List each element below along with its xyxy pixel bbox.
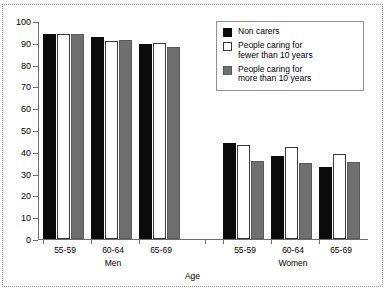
bar bbox=[91, 37, 104, 239]
x-tick bbox=[223, 240, 224, 244]
bar bbox=[167, 47, 180, 239]
y-tick-label: 60 bbox=[21, 105, 31, 114]
bar-group bbox=[139, 22, 187, 239]
panel-separator bbox=[191, 22, 219, 239]
legend-swatch-more-than-10-years bbox=[223, 66, 232, 75]
y-tick-label: 0 bbox=[26, 236, 31, 245]
panel-label: Women bbox=[278, 259, 307, 268]
legend-label: Non carers bbox=[238, 27, 280, 37]
legend: Non carers People caring for fewer than … bbox=[216, 21, 364, 91]
y-tick bbox=[33, 109, 38, 110]
x-tick bbox=[43, 240, 44, 244]
bar bbox=[119, 40, 132, 239]
x-tick bbox=[205, 240, 206, 244]
y-tick bbox=[33, 66, 38, 67]
y-tick bbox=[33, 175, 38, 176]
legend-item: People caring for more than 10 years bbox=[223, 65, 357, 85]
x-tick-label: 65-69 bbox=[150, 246, 172, 255]
bar bbox=[153, 43, 166, 239]
bar bbox=[43, 34, 56, 239]
y-tick bbox=[33, 218, 38, 219]
chart-figure: 0102030405060708090100 bbox=[0, 0, 385, 290]
bar bbox=[319, 167, 332, 239]
bar bbox=[299, 163, 312, 239]
bar bbox=[223, 143, 236, 239]
x-tick bbox=[319, 240, 320, 244]
y-tick-label: 10 bbox=[21, 214, 31, 223]
x-tick bbox=[91, 240, 92, 244]
y-tick-label: 20 bbox=[21, 192, 31, 201]
bar-group bbox=[43, 22, 91, 239]
y-tick bbox=[33, 131, 38, 132]
y-tick-label: 90 bbox=[21, 39, 31, 48]
y-tick bbox=[33, 44, 38, 45]
y-tick-label: 100 bbox=[16, 18, 31, 27]
bar bbox=[251, 161, 264, 239]
bar bbox=[139, 44, 152, 239]
y-tick bbox=[33, 153, 38, 154]
y-tick bbox=[33, 240, 38, 241]
y-tick bbox=[33, 22, 38, 23]
legend-label: People caring for more than 10 years bbox=[238, 65, 311, 85]
x-tick-label: 65-69 bbox=[330, 246, 352, 255]
legend-item: Non carers bbox=[223, 27, 357, 37]
y-tick-label: 30 bbox=[21, 170, 31, 179]
panel-label: Men bbox=[105, 259, 122, 268]
x-tick bbox=[271, 240, 272, 244]
bar-group bbox=[91, 22, 139, 239]
bar bbox=[237, 145, 250, 239]
bar bbox=[347, 162, 360, 239]
bar bbox=[57, 34, 70, 239]
y-tick-label: 70 bbox=[21, 83, 31, 92]
panel-men bbox=[39, 22, 191, 239]
x-tick bbox=[139, 240, 140, 244]
legend-swatch-non-carers bbox=[223, 28, 232, 37]
x-tick-label: 55-59 bbox=[234, 246, 256, 255]
x-axis-title: Age bbox=[0, 272, 385, 281]
legend-label: People caring for fewer than 10 years bbox=[238, 41, 313, 61]
bar bbox=[285, 147, 298, 239]
y-tick-label: 80 bbox=[21, 61, 31, 70]
x-axis-tick-labels: 55-5960-6465-6955-5960-6465-69 bbox=[38, 246, 368, 258]
bar bbox=[71, 34, 84, 239]
legend-item: People caring for fewer than 10 years bbox=[223, 41, 357, 61]
x-tick-label: 55-59 bbox=[54, 246, 76, 255]
x-tick-label: 60-64 bbox=[282, 246, 304, 255]
bar bbox=[105, 41, 118, 239]
panel-labels: MenWomen bbox=[38, 259, 368, 271]
x-tick-label: 60-64 bbox=[102, 246, 124, 255]
legend-swatch-fewer-than-10-years bbox=[223, 42, 232, 51]
y-tick-label: 50 bbox=[21, 127, 31, 136]
bar bbox=[271, 156, 284, 239]
y-tick bbox=[33, 196, 38, 197]
y-tick-label: 40 bbox=[21, 148, 31, 157]
y-tick bbox=[33, 87, 38, 88]
bar bbox=[333, 154, 346, 239]
